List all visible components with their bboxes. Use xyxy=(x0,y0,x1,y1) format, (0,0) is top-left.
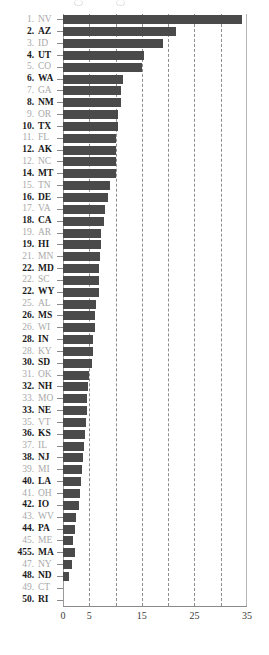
bar xyxy=(63,442,84,451)
bar xyxy=(63,276,99,285)
bar xyxy=(63,371,89,380)
rank-label: 43. xyxy=(0,511,34,523)
bar-row: 30.SD xyxy=(0,357,269,369)
bar-row: 22.WY xyxy=(0,286,269,298)
rank-label: 48. xyxy=(0,570,34,582)
bar-row: 12.NC xyxy=(0,156,269,168)
x-axis-tick-label: 5 xyxy=(87,610,92,621)
rank-label: 33. xyxy=(0,393,34,405)
rank-label: 12. xyxy=(0,144,34,156)
rank-label: 22. xyxy=(0,263,34,275)
bar-row: 40.LA xyxy=(0,476,269,488)
x-axis-tick-labels: 05152535 xyxy=(0,610,269,630)
x-axis-tick-label: 0 xyxy=(61,610,66,621)
bar-row: 12.AK xyxy=(0,144,269,156)
bar-row: 48.ND xyxy=(0,570,269,582)
rank-label: 16. xyxy=(0,192,34,204)
rank-label: 2. xyxy=(0,26,34,38)
bar xyxy=(63,98,121,107)
bar xyxy=(63,86,121,95)
bar-row: 38.NJ xyxy=(0,452,269,464)
rank-label: 44. xyxy=(0,523,34,535)
bar-row: 31.OK xyxy=(0,369,269,381)
bar-row: 50.RI xyxy=(0,594,269,606)
scan-artifact-mark xyxy=(116,0,125,6)
bar xyxy=(63,465,82,474)
bar-row: 33.NE xyxy=(0,405,269,417)
bar xyxy=(63,347,93,356)
rank-label: 22. xyxy=(0,274,34,286)
rank-label: 50. xyxy=(0,594,34,606)
bar-row: 6.WA xyxy=(0,73,269,85)
rank-label: 1. xyxy=(0,14,34,26)
rank-label: 31. xyxy=(0,369,34,381)
bar xyxy=(63,418,86,427)
rank-label: 6. xyxy=(0,73,34,85)
bar-row: 25.AL xyxy=(0,298,269,310)
rank-label: 39. xyxy=(0,464,34,476)
bar-row: 26.MS xyxy=(0,310,269,322)
bar-row: 28.IN xyxy=(0,334,269,346)
bar xyxy=(63,359,92,368)
bar-row: 32.NH xyxy=(0,381,269,393)
bar xyxy=(63,122,118,131)
bar-row: 19.HI xyxy=(0,239,269,251)
rank-label: 14. xyxy=(0,168,34,180)
bar-row: 28.KY xyxy=(0,346,269,358)
rank-label: 49. xyxy=(0,582,34,594)
rank-label: 18. xyxy=(0,215,34,227)
rank-label: 28. xyxy=(0,346,34,358)
rank-label: 35. xyxy=(0,417,34,429)
rank-label: 19. xyxy=(0,239,34,251)
bar-row: 37.IL xyxy=(0,440,269,452)
bar xyxy=(63,15,242,24)
bar xyxy=(63,536,73,545)
rank-label: 45. xyxy=(0,535,34,547)
bar xyxy=(63,489,80,498)
bar-row: 14.MT xyxy=(0,168,269,180)
rank-label: 33. xyxy=(0,405,34,417)
bar xyxy=(63,157,116,166)
bar-row: 2.AZ xyxy=(0,26,269,38)
bar xyxy=(63,51,144,60)
bar xyxy=(63,75,123,84)
bar-row: 15.TN xyxy=(0,180,269,192)
rank-label: 26. xyxy=(0,310,34,322)
rank-label: 11. xyxy=(0,132,34,144)
bar-row: 49.CT xyxy=(0,582,269,594)
bar xyxy=(63,264,99,273)
rank-label: 17. xyxy=(0,203,34,215)
bar-row: 44.PA xyxy=(0,523,269,535)
x-axis-line xyxy=(63,606,247,607)
bar xyxy=(63,27,176,36)
bar xyxy=(63,217,104,226)
bar xyxy=(63,548,75,557)
bar-row: 45.ME xyxy=(0,535,269,547)
bar-row: 9.OR xyxy=(0,109,269,121)
bar xyxy=(63,63,142,72)
bar-row: 1.NV xyxy=(0,14,269,26)
bar xyxy=(63,193,108,202)
bar xyxy=(63,205,105,214)
bar xyxy=(63,169,116,178)
bar xyxy=(63,525,75,534)
rank-label: 10. xyxy=(0,121,34,133)
bar xyxy=(63,300,96,309)
rank-label: 36. xyxy=(0,428,34,440)
rank-label: 3. xyxy=(0,38,34,50)
bar-row: 33.MO xyxy=(0,393,269,405)
bar xyxy=(63,501,79,510)
y-axis-tick xyxy=(57,600,63,601)
bar-row: 19.AR xyxy=(0,227,269,239)
rank-label: 41. xyxy=(0,488,34,500)
bar-row: 11.FL xyxy=(0,132,269,144)
bar-row: 35.VT xyxy=(0,417,269,429)
rank-label: 4. xyxy=(0,50,34,62)
scan-artifact-marks xyxy=(0,0,269,10)
rank-label: 26. xyxy=(0,322,34,334)
bar xyxy=(63,406,87,415)
scan-artifact-mark xyxy=(74,0,83,6)
bar-row: 5.CO xyxy=(0,61,269,73)
bar xyxy=(63,394,87,403)
bar xyxy=(63,323,95,332)
